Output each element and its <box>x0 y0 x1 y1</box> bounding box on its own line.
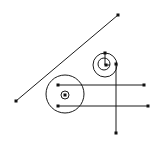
large-inner-center-dot <box>64 94 67 97</box>
small-circle-center-dot <box>105 64 108 67</box>
diagonal-start-dot <box>15 100 18 103</box>
lower-line-start-dot <box>57 105 60 108</box>
upper-line-start-dot <box>57 84 60 87</box>
diagonal-end-dot <box>117 14 120 17</box>
geometry-diagram <box>0 0 163 142</box>
vertical-line-top-dot <box>115 63 118 66</box>
small-circle-top-dot <box>104 52 107 55</box>
upper-line-end-dot <box>143 84 146 87</box>
background <box>0 0 163 142</box>
vertical-line-bottom-dot <box>115 132 118 135</box>
lower-line-end-dot <box>147 105 150 108</box>
